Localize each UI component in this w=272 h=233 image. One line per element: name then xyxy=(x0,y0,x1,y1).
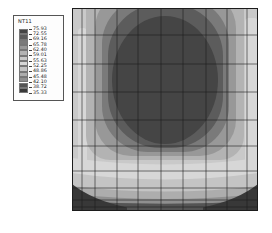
legend-swatch xyxy=(19,88,28,93)
contour-band-left-highlight xyxy=(78,28,87,178)
legend-tick-label: 35.33 xyxy=(33,91,47,96)
contour-legend: NT11 75.9372.5569.1665.7862.4059.0155.63… xyxy=(13,15,64,101)
legend-tick-mark xyxy=(29,39,33,40)
legend-tick-mark xyxy=(29,66,33,67)
legend-title: NT11 xyxy=(18,19,32,24)
legend-tick-mark xyxy=(29,87,33,88)
temperature-contour-plot xyxy=(72,8,258,211)
legend-tick-mark xyxy=(29,34,33,35)
legend-tick-mark xyxy=(29,93,33,94)
legend-tick-mark xyxy=(29,55,33,56)
legend-tick-mark xyxy=(29,29,33,30)
legend-tick-mark xyxy=(29,77,33,78)
legend-tick-mark xyxy=(29,82,33,83)
legend-tick-mark xyxy=(29,71,33,72)
legend-tick-mark xyxy=(29,61,33,62)
contour-plot-figure: NT11 75.9372.5569.1665.7862.4059.0155.63… xyxy=(0,0,272,233)
legend-tick-mark xyxy=(29,45,33,46)
legend-tick-mark xyxy=(29,50,33,51)
